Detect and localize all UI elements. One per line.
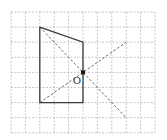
grid-diagram: O <box>0 0 167 140</box>
quadrilateral <box>40 27 83 103</box>
center-point-label: O <box>73 74 81 86</box>
center-point <box>81 70 85 74</box>
